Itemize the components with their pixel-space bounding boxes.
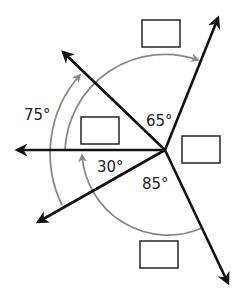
angle-label-85: 85° xyxy=(142,175,169,193)
angle-diagram: 65° 75° 30° 85° xyxy=(0,0,239,301)
answer-box-left[interactable] xyxy=(81,117,119,144)
answer-box-bottom[interactable] xyxy=(140,241,178,268)
angle-label-75: 75° xyxy=(24,106,51,124)
answer-box-top[interactable] xyxy=(142,20,180,47)
angle-label-65: 65° xyxy=(146,112,173,130)
angle-label-30: 30° xyxy=(97,158,124,176)
answer-box-right[interactable] xyxy=(182,136,220,163)
